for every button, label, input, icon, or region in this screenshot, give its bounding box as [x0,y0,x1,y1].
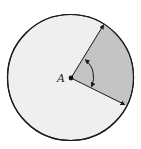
center-point [69,76,74,81]
circle-sector-diagram: A [0,0,141,149]
center-label: A [56,72,65,85]
